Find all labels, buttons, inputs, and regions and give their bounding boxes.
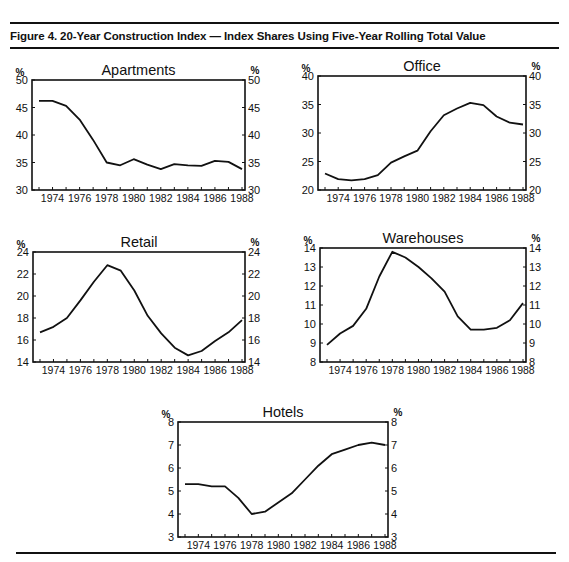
x-tick-label: 1984 (320, 539, 344, 551)
x-tick-label: 1988 (373, 539, 397, 551)
y-tick-label-right: 7 (391, 439, 397, 451)
x-tick-label: 1974 (187, 539, 211, 551)
y-tick-label-left: 4 (168, 508, 174, 520)
y-tick-label-right: 4 (391, 508, 397, 520)
bottom-rule (16, 552, 556, 554)
x-tick-label: 1982 (293, 539, 317, 551)
y-tick-label-left: 5 (168, 485, 174, 497)
y-tick-label-left: 6 (168, 462, 174, 474)
x-tick-label: 1986 (347, 539, 371, 551)
y-tick-label-left: 7 (168, 439, 174, 451)
y-tick-label-left: 8 (168, 416, 174, 428)
y-tick-label-right: 8 (391, 416, 397, 428)
series-line (185, 443, 385, 514)
y-tick-label-left: 3 (168, 531, 174, 543)
plot-frame (178, 422, 388, 537)
x-tick-label: 1976 (213, 539, 237, 551)
x-tick-label: 1978 (240, 539, 264, 551)
y-tick-label-right: 5 (391, 485, 397, 497)
chart-title: Hotels (262, 404, 303, 420)
x-tick-label: 1980 (267, 539, 291, 551)
chart-hotels: Hotels%%33445566778819741976197819801982… (0, 0, 569, 562)
y-tick-label-right: 6 (391, 462, 397, 474)
